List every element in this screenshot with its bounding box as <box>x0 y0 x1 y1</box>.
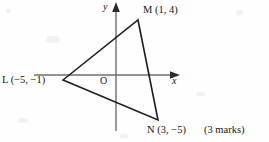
vertex-label-l: L (−5, −1) <box>2 75 45 86</box>
vertex-label-m: M (1, 4) <box>143 5 178 16</box>
plot-area <box>0 0 269 142</box>
triangle-lmn <box>63 20 158 120</box>
y-axis-arrowhead <box>112 2 120 12</box>
marks-allocation: (3 marks) <box>204 125 245 136</box>
origin-label: O <box>100 76 107 86</box>
y-axis-label: y <box>103 2 107 12</box>
vertex-label-n: N (3, −5) <box>147 125 186 136</box>
x-axis-label: x <box>172 76 176 86</box>
coordinate-geometry-figure: y x O M (1, 4) L (−5, −1) N (3, −5) (3 m… <box>0 0 269 142</box>
